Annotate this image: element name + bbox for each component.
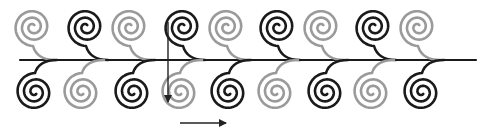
bottom-spiral-dark (309, 60, 348, 108)
top-spiral-dark (261, 11, 300, 60)
top-spiral-row (16, 11, 440, 60)
bottom-spiral-dark (18, 60, 57, 108)
top-spiral-dark (69, 11, 108, 60)
bottom-spiral-dark (212, 60, 251, 108)
bottom-spiral-light (65, 60, 104, 108)
bottom-spiral-dark (405, 60, 444, 108)
top-spiral-light (113, 11, 152, 60)
top-spiral-dark (166, 11, 205, 60)
top-spiral-light (401, 11, 440, 60)
bottom-spiral-light (355, 60, 394, 108)
spiral-frieze-diagram (0, 0, 488, 140)
diagram-canvas (0, 0, 488, 140)
bottom-spiral-dark (116, 60, 155, 108)
bottom-spiral-light (259, 60, 298, 108)
top-spiral-light (16, 11, 55, 60)
bottom-spiral-row (18, 60, 444, 108)
top-spiral-light (305, 11, 344, 60)
top-spiral-dark (357, 11, 396, 60)
top-spiral-light (210, 11, 249, 60)
